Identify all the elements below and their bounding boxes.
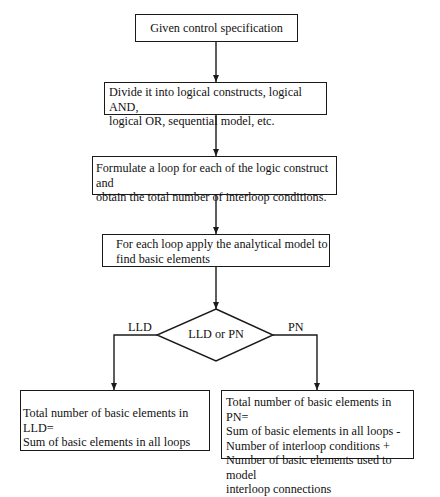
node-start: Given control specification <box>135 14 298 42</box>
node-start-text: Given control specification <box>150 21 283 36</box>
node-formulate: Formulate a loop for each of the logic c… <box>92 156 337 195</box>
node-pn-result: Total number of basic elements in PN= Su… <box>221 390 414 459</box>
arrow-decision-to-lld <box>114 335 157 390</box>
node-apply-text: For each loop apply the analytical model… <box>116 237 328 266</box>
branch-label-pn: PN <box>288 320 304 335</box>
node-divide: Divide it into logical constructs, logic… <box>104 82 327 115</box>
decision-text: LLD or PN <box>158 327 274 342</box>
node-formulate-text: Formulate a loop for each of the logic c… <box>96 161 328 204</box>
branch-label-lld: LLD <box>128 320 152 335</box>
node-divide-text: Divide it into logical constructs, logic… <box>109 85 302 128</box>
node-apply: For each loop apply the analytical model… <box>102 234 330 267</box>
node-lld-result: Total number of basic elements in LLD= S… <box>20 390 210 451</box>
arrow-decision-to-pn <box>273 335 317 390</box>
node-lld-result-text: Total number of basic elements in LLD= S… <box>23 406 190 449</box>
node-pn-result-text: Total number of basic elements in PN= Su… <box>226 395 400 496</box>
